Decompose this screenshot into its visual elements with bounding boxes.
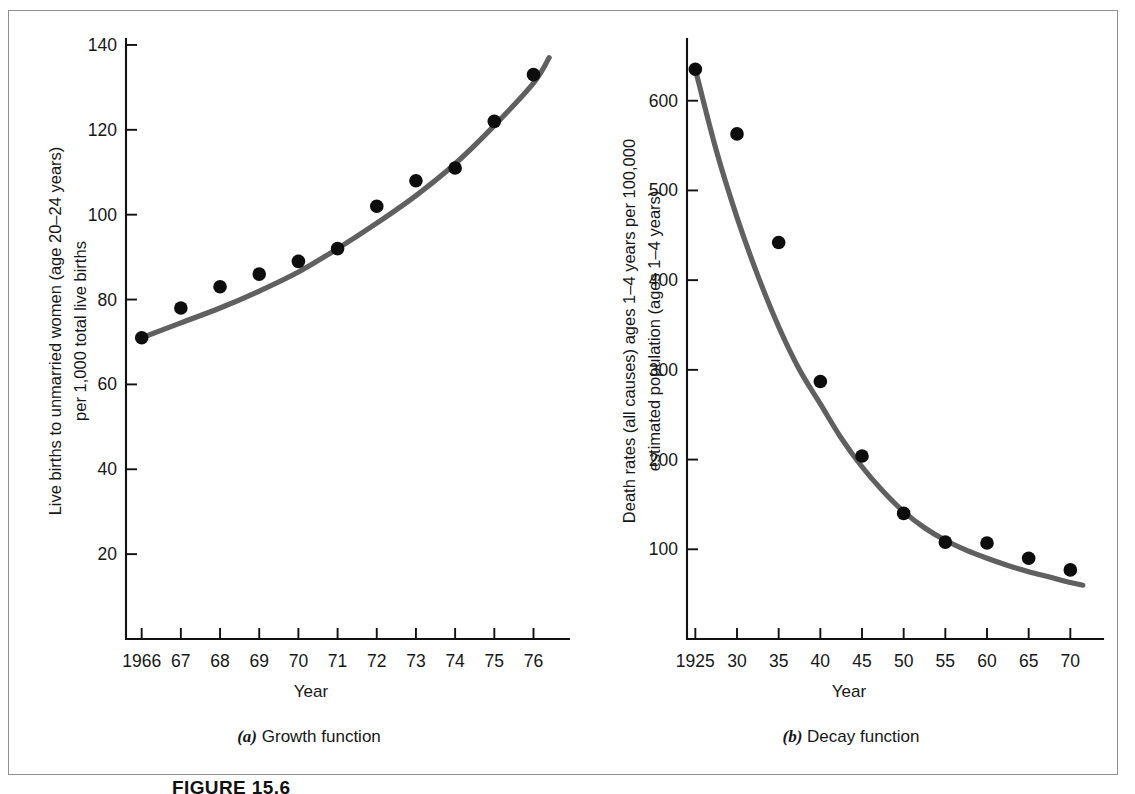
data-point [897,507,911,521]
data-point [855,449,869,463]
data-point [448,161,462,175]
x-tick-label: 75 [485,651,504,671]
x-tick-label: 72 [367,651,386,671]
panel-caption-decay-text: Decay function [802,727,919,746]
data-point [174,301,188,315]
growth-function-plot: 2040608010012014019666768697071727374757… [9,11,579,711]
y-axis-title-decay-line1: Death rates (all causes) ages 1–4 years … [620,139,638,523]
data-point [527,68,541,82]
data-point [252,267,266,281]
axis-lines [126,39,569,639]
x-tick-label: 70 [289,651,309,671]
y-axis-title-growth-line2: per 1,000 total live births [71,241,89,421]
data-point [980,536,994,550]
x-tick-label: 69 [249,651,268,671]
panel-caption-growth: (a) Growth function [237,727,381,747]
x-tick-label: 74 [445,651,465,671]
data-point [135,331,149,345]
data-point [409,174,423,188]
y-tick-label: 80 [98,290,118,310]
figure-frame: 2040608010012014019666768697071727374757… [8,10,1118,775]
x-tick-label: 60 [977,651,997,671]
x-tick-label: 73 [406,651,425,671]
x-tick-label: 40 [811,651,831,671]
data-point [1022,551,1036,565]
x-tick-label: 70 [1061,651,1081,671]
x-tick-label: 30 [727,651,747,671]
panel-caption-decay: (b) Decay function [782,727,919,747]
panel-caption-decay-marker: (b) [782,727,802,746]
data-point [1064,563,1078,577]
data-point [772,236,786,250]
fit-curve [142,58,549,338]
chart-panel-decay-function: 1002003004005006001925303540455055606570… [579,11,1119,774]
x-tick-label: 68 [210,651,229,671]
y-axis-title-growth-line1: Live births to unmarried women (age 20–2… [46,147,64,516]
x-tick-label: 65 [1019,651,1038,671]
data-point [292,255,306,269]
x-tick-label: 55 [936,651,955,671]
y-axis-title-decay: Death rates (all causes) ages 1–4 years … [617,31,667,631]
fit-curve [695,69,1083,585]
x-tick-label: 35 [769,651,788,671]
axis-lines [687,39,1103,639]
data-point [370,199,384,213]
panel-caption-growth-text: Growth function [257,727,381,746]
x-axis-title-growth: Year [294,682,328,702]
y-tick-label: 60 [98,374,118,394]
y-tick-label: 20 [98,544,118,564]
y-axis-title-growth: Live births to unmarried women (age 20–2… [43,31,93,631]
data-point [730,127,744,141]
y-tick-label: 40 [98,459,118,479]
x-tick-label: 71 [328,651,347,671]
x-tick-label: 76 [524,651,543,671]
data-point [689,63,703,77]
data-point [213,280,227,294]
x-tick-label: 67 [171,651,190,671]
figure-number-label: FIGURE 15.6 [172,777,290,794]
y-axis-title-decay-line2: estimated population (ages 1–4 years) [645,191,663,472]
data-point [814,375,828,389]
x-axis-title-decay: Year [832,682,866,702]
x-tick-label: 1966 [122,651,161,671]
x-tick-label: 50 [894,651,914,671]
data-point [488,115,502,129]
panel-caption-growth-marker: (a) [237,727,257,746]
data-point [331,242,345,256]
data-point [939,535,953,549]
x-tick-label: 45 [852,651,871,671]
chart-panel-growth-function: 2040608010012014019666768697071727374757… [9,11,579,774]
x-tick-label: 1925 [676,651,715,671]
